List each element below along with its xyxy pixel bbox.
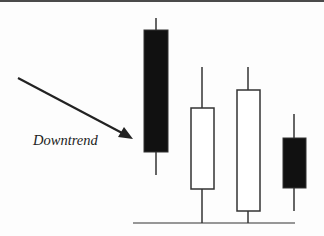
- candle-3-bullish: [237, 67, 260, 223]
- candlestick-diagram: Downtrend: [0, 0, 324, 236]
- candle-1-bearish: [144, 18, 168, 175]
- candle-4-bearish: [283, 114, 306, 211]
- candle-2-bullish: [191, 67, 214, 223]
- candlestick-chart: [0, 0, 324, 236]
- downtrend-arrow-icon: [18, 78, 133, 139]
- downtrend-label: Downtrend: [33, 132, 98, 149]
